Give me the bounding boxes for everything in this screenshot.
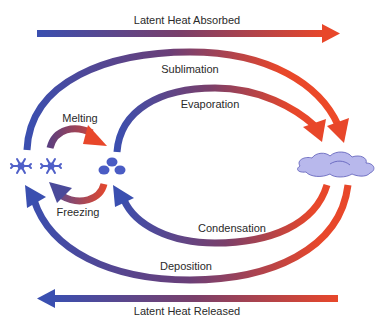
melting-label: Melting xyxy=(62,112,97,124)
latent-heat-absorbed-arrow xyxy=(37,24,340,43)
water-droplets-icon xyxy=(99,158,126,175)
latent-heat-released-label: Latent Heat Released xyxy=(134,305,240,317)
condensation-label: Condensation xyxy=(198,222,266,234)
cloud-icon xyxy=(298,152,374,177)
deposition-label: Deposition xyxy=(160,260,212,272)
melting-arrow xyxy=(50,125,107,148)
condensation-arrow xyxy=(113,185,327,243)
sublimation-label: Sublimation xyxy=(161,63,218,75)
freezing-label: Freezing xyxy=(57,206,100,218)
evaporation-label: Evaporation xyxy=(181,98,240,110)
ice-snowflakes xyxy=(11,159,61,173)
snowflake-icon xyxy=(41,159,61,173)
snowflake-icon xyxy=(11,159,31,173)
phase-change-diagram: Latent Heat Absorbed Sublimation Evapora… xyxy=(0,0,389,330)
freezing-arrow xyxy=(49,182,104,203)
latent-heat-absorbed-label: Latent Heat Absorbed xyxy=(134,14,240,26)
